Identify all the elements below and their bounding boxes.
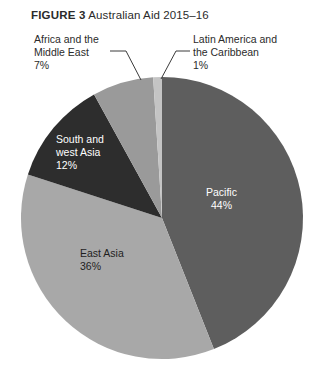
figure-container: FIGURE 3 Australian Aid 2015–16 Africa a… [0,0,325,372]
callout-africa-line2: Middle East [34,46,99,59]
callout-africa-and-the-middle-east: Africa and the Middle East 7% [34,33,99,73]
slice-label-pacific-name: Pacific [206,186,237,199]
slice-label-east-asia: East Asia 36% [80,247,124,273]
slice-label-pacific-value: 44% [206,199,237,212]
slice-label-east-asia-name: East Asia [80,247,124,260]
callout-africa-line1: Africa and the [34,33,99,46]
callout-latin-line2: the Caribbean [193,46,277,59]
leader-lines [110,51,190,80]
slice-label-east-asia-value: 36% [80,260,124,273]
callout-latin-america-and-the-caribbean: Latin America and the Caribbean 1% [193,33,277,73]
leader-line-africa [110,51,141,80]
slice-label-south-and-west-asia: South and west Asia 12% [56,133,104,173]
slice-label-south-and-west-asia-line2: west Asia [56,146,104,159]
slice-label-south-and-west-asia-line1: South and [56,133,104,146]
callout-africa-value: 7% [34,59,99,72]
slice-label-pacific: Pacific 44% [206,186,237,212]
leader-line-latin-america [161,51,190,79]
callout-latin-line1: Latin America and [193,33,277,46]
pie-slices [21,77,303,359]
callout-latin-value: 1% [193,59,277,72]
slice-label-south-and-west-asia-value: 12% [56,159,104,172]
